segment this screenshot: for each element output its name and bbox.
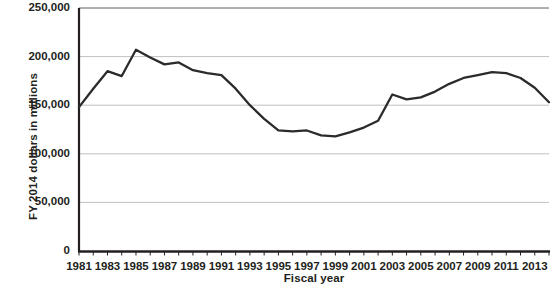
x-axis-tick-label: 2013 [522,260,548,272]
plot-area [0,0,558,293]
data-series-line [79,50,549,137]
line-chart: FY 2014 dollars in millions 050,000100,0… [0,0,558,293]
x-axis-title: Fiscal year [79,272,549,284]
gridlines [79,8,549,202]
